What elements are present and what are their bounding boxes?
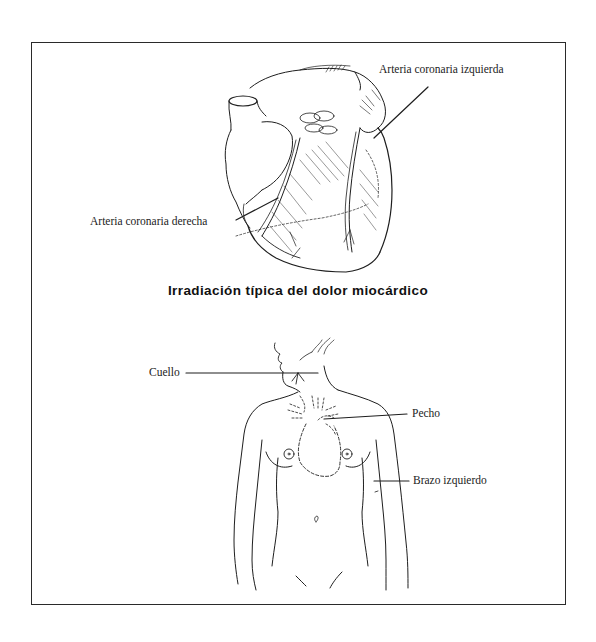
illustration-canvas bbox=[0, 0, 596, 642]
label-neck: Cuello bbox=[149, 367, 180, 379]
label-chest: Pecho bbox=[412, 408, 440, 420]
body-illustration bbox=[234, 338, 408, 590]
figure-title: Irradiación típica del dolor miocárdico bbox=[0, 283, 596, 298]
label-right-coronary-artery: Arteria coronaria derecha bbox=[90, 216, 207, 228]
heart-illustration bbox=[225, 65, 392, 272]
leader-chest bbox=[324, 414, 407, 419]
breast-left bbox=[284, 449, 294, 459]
leader-neck-arrow bbox=[292, 373, 304, 384]
breast-right bbox=[342, 449, 352, 459]
label-left-arm: Brazo izquierdo bbox=[413, 475, 487, 487]
leader-left-coronary bbox=[374, 87, 428, 138]
label-left-coronary-artery: Arteria coronaria izquierda bbox=[379, 64, 504, 76]
